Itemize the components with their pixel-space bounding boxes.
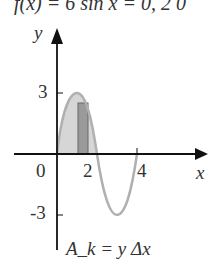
- x-tick-label-4: 4: [137, 160, 147, 182]
- area-formula: A_k = y Δx: [66, 238, 151, 260]
- x-axis-label: x: [196, 162, 204, 184]
- approx-rectangle: [78, 103, 88, 154]
- y-axis-label: y: [34, 22, 42, 44]
- y-tick-label-3: 3: [38, 81, 48, 103]
- x-tick-label-0: 0: [36, 160, 46, 182]
- y-axis-arrow-icon: [51, 28, 63, 44]
- x-axis-arrow-icon: [195, 148, 208, 160]
- x-tick-label-2: 2: [83, 160, 93, 182]
- y-tick-label-neg3: -3: [30, 202, 46, 224]
